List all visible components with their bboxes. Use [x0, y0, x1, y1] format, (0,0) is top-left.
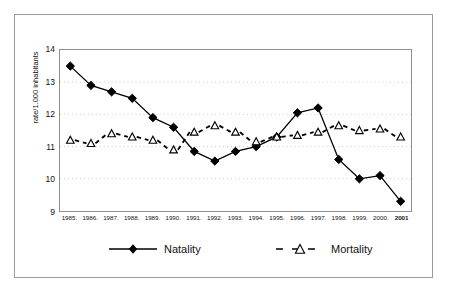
series-1-marker-2 — [108, 130, 116, 137]
outer-frame-border: rate/1.000 inhabitants 91011121314 1985.… — [14, 14, 433, 278]
legend-swatch-mortality — [274, 242, 326, 256]
series-1-marker-15 — [376, 125, 384, 132]
legend-label-mortality: Mortality — [331, 243, 373, 255]
series-1-marker-4 — [149, 136, 157, 143]
x-axis-tick-1: 1986. — [82, 214, 97, 221]
x-axis-tick-3: 1988. — [124, 214, 139, 221]
x-axis-tick-2: 1987. — [103, 214, 118, 221]
y-axis-tick-14: 14 — [46, 44, 55, 54]
x-axis-tick-11: 1996. — [290, 214, 305, 221]
series-1-segment-6 — [199, 126, 211, 132]
series-1-segment-7 — [219, 126, 231, 132]
series-1-marker-12 — [314, 128, 322, 135]
x-axis-tick-16: 2001 — [395, 214, 409, 221]
series-1-marker-9 — [252, 138, 260, 145]
series-1-marker-11 — [294, 131, 302, 138]
series-1-segment-0 — [75, 140, 87, 143]
y-axis-tick-13: 13 — [46, 77, 55, 87]
series-0-marker-12 — [314, 104, 322, 112]
x-axis-tick-labels: 1985.1986.1987.1988.1989.1990.1991.1992.… — [59, 214, 412, 228]
series-1-marker-3 — [128, 133, 136, 140]
x-axis-tick-12: 1997. — [311, 214, 326, 221]
x-axis-tick-7: 1992. — [207, 214, 222, 221]
series-1-segment-2 — [116, 134, 128, 137]
legend-entry-mortality: Mortality — [274, 239, 373, 259]
chart-legend: Natality Mortality — [59, 239, 412, 261]
series-1-segment-11 — [302, 132, 314, 135]
series-1-marker-14 — [356, 127, 364, 134]
chart-screenshot: rate/1.000 inhabitants 91011121314 1985.… — [0, 0, 449, 295]
x-axis-tick-15: 2000. — [373, 214, 388, 221]
series-1-segment-14 — [364, 129, 376, 131]
series-1-segment-10 — [281, 135, 293, 137]
y-axis-tick-10: 10 — [46, 174, 55, 184]
x-axis-tick-6: 1991. — [186, 214, 201, 221]
series-1-marker-8 — [232, 128, 240, 135]
y-axis-tick-11: 11 — [46, 142, 55, 152]
chart-region: rate/1.000 inhabitants 91011121314 1985.… — [15, 15, 434, 279]
series-1-marker-5 — [170, 146, 178, 153]
series-1-marker-1 — [87, 139, 95, 146]
x-axis-tick-10: 1995. — [269, 214, 284, 221]
series-1-marker-6 — [190, 128, 198, 135]
series-1-segment-4 — [157, 140, 169, 150]
series-1-segment-13 — [343, 126, 355, 131]
series-1-segment-8 — [240, 132, 252, 142]
series-1-marker-13 — [335, 122, 343, 129]
series-1-marker-7 — [211, 122, 219, 129]
legend-swatch-natality — [107, 242, 159, 256]
series-0-marker-7 — [211, 157, 219, 165]
plot-area — [59, 49, 412, 212]
series-0-marker-2 — [107, 88, 115, 96]
y-axis-tick-12: 12 — [46, 109, 55, 119]
series-1-marker-0 — [67, 136, 75, 143]
series-0-marker-8 — [231, 147, 239, 155]
series-1-segment-1 — [95, 134, 107, 144]
y-axis-tick-labels: 91011121314 — [39, 49, 55, 212]
data-series-layer — [60, 50, 411, 211]
x-axis-tick-9: 1994. — [249, 214, 264, 221]
x-axis-tick-14: 1999. — [352, 214, 367, 221]
y-axis-tick-9: 9 — [50, 207, 55, 217]
legend-label-natality: Natality — [164, 243, 201, 255]
x-axis-tick-13: 1998. — [332, 214, 347, 221]
x-axis-tick-4: 1989. — [145, 214, 160, 221]
series-1-segment-12 — [323, 126, 335, 132]
series-1-segment-15 — [385, 129, 397, 137]
series-1-marker-16 — [397, 133, 405, 140]
legend-entry-natality: Natality — [107, 239, 201, 259]
series-1-segment-3 — [137, 137, 149, 140]
x-axis-tick-0: 1985. — [62, 214, 77, 221]
x-axis-tick-8: 1993. — [228, 214, 243, 221]
x-axis-tick-5: 1990. — [165, 214, 180, 221]
